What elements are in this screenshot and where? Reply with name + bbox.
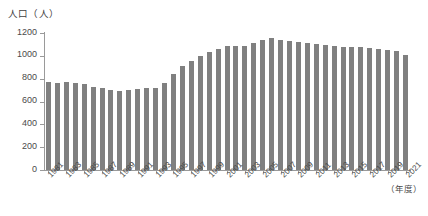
x-axis-unit-label: （年度） [386,182,422,194]
bar [278,40,283,170]
bar [225,46,230,170]
plot-area [44,33,410,170]
bar [46,82,51,170]
y-axis-tick-label: 800 [22,72,37,82]
bar [385,50,390,170]
y-axis-title: 人口（人） [8,6,59,20]
bar [162,83,167,170]
bar [189,61,194,170]
bar [126,90,131,170]
bar [135,89,140,170]
bar [260,40,265,170]
bar [180,66,185,170]
bar [296,42,301,170]
bar [198,56,203,170]
bar [242,46,247,170]
bar [73,83,78,170]
bar [55,83,60,170]
bar [323,45,328,170]
bar [332,46,337,170]
bar [287,41,292,170]
bar [358,47,363,170]
bar [144,88,149,170]
bar [394,51,399,170]
bar [341,47,346,170]
bar [233,46,238,170]
bar [216,49,221,170]
bar [171,74,176,170]
bar [403,55,408,170]
y-axis-tick-label: 1000 [17,49,37,59]
bar [82,84,87,170]
bar [91,87,96,170]
y-axis-tick-mark [40,170,44,171]
bar [117,91,122,170]
y-axis-tick-label: 400 [22,118,37,128]
y-axis-tick-label: 1200 [17,27,37,37]
y-axis-tick-label: 200 [22,141,37,151]
bar [251,43,256,170]
bar [305,43,310,170]
y-axis-tick-label: 0 [32,164,37,174]
bar [153,88,158,170]
bar [207,52,212,170]
bar [367,48,372,170]
bar [100,88,105,170]
bar [314,44,319,170]
y-axis-tick-label: 600 [22,95,37,105]
bar [349,47,354,170]
bar [108,90,113,170]
population-bar-chart: 人口（人） 020040060080010001200 198119831985… [0,0,428,216]
bar [376,49,381,170]
bar [269,38,274,170]
bar [64,82,69,170]
